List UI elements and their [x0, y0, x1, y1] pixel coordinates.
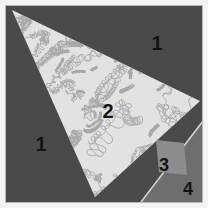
region-label-1-upper: 1 — [151, 32, 162, 54]
region-label-4: 4 — [183, 179, 193, 199]
region-label-2: 2 — [102, 100, 113, 122]
region-segmentation-figure: 1 1 2 3 4 — [0, 0, 208, 208]
region-label-1-left: 1 — [35, 133, 46, 155]
region-label-3: 3 — [159, 155, 169, 175]
figure-canvas: 1 1 2 3 4 — [0, 0, 208, 208]
